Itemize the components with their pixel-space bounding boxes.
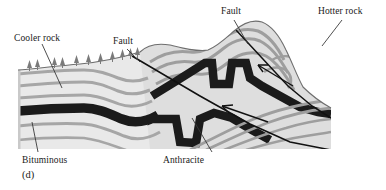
block-left-edge [18,60,21,152]
label-cooler-rock: Cooler rock [14,33,60,43]
fold-hook-3 [300,40,331,54]
fold-hook-4 [296,30,331,44]
figure-caption: (d) [22,169,34,180]
label-hotter-rock: Hotter rock [318,6,363,16]
label-anthracite: Anthracite [163,155,204,165]
label-fault-left: Fault [113,36,133,46]
label-bituminous: Bituminous [22,155,67,165]
leader-hotter-rock [322,20,342,46]
label-fault-top: Fault [221,6,241,16]
geologic-cross-section-figure: Cooler rock Fault Fault Hotter rock Bitu… [0,0,386,190]
